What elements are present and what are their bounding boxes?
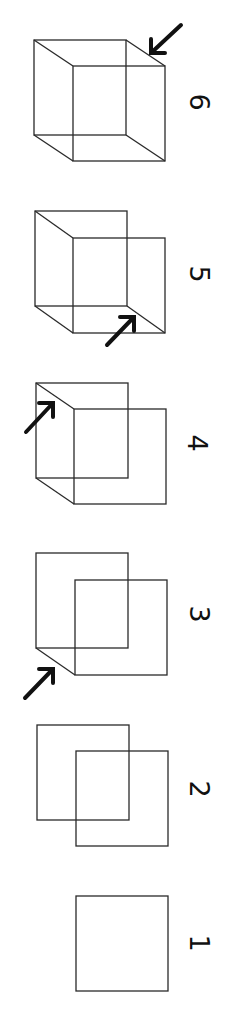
step-label-2: 2 (184, 769, 214, 809)
step-figure-4 (26, 383, 166, 504)
front-square (73, 66, 165, 161)
arrow-icon (25, 669, 53, 698)
back-square (35, 211, 127, 306)
step-label-4: 4 (182, 423, 212, 463)
arrow-icon (26, 403, 53, 432)
step-figure-5 (35, 211, 165, 345)
step-figure-2 (37, 725, 168, 846)
step-label-1: 1 (184, 923, 214, 963)
square (76, 896, 168, 991)
connector-edge-bottom-left (35, 306, 73, 333)
cube-construction-diagram (0, 0, 244, 1024)
step-figure-3 (25, 553, 167, 698)
step-figure-6 (34, 25, 181, 161)
connector-edge-top-left (34, 40, 73, 66)
back-square (34, 40, 126, 135)
step-label-3: 3 (184, 594, 214, 634)
arrow-icon (107, 317, 134, 345)
front-square (74, 409, 166, 504)
arrow-icon (151, 25, 181, 53)
front-square (75, 580, 167, 675)
step-figure-1 (76, 896, 168, 991)
back-square (36, 383, 128, 478)
front-square (73, 238, 165, 333)
back-square (36, 553, 128, 648)
step-label-6: 6 (184, 82, 214, 122)
connector-edge-bottom-left (36, 478, 74, 504)
connector-edge-top-left (35, 211, 73, 238)
connector-edge-bottom-right (126, 135, 165, 161)
back-square (37, 725, 129, 820)
connector-edge-bottom-left (34, 135, 73, 161)
front-square (76, 751, 168, 846)
step-label-5: 5 (184, 254, 214, 294)
